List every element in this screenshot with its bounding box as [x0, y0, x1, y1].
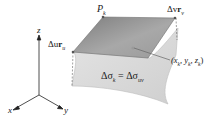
point-pk-marker [102, 16, 105, 19]
label-area-element: Δσk = Δσuv [101, 71, 144, 83]
label-delta-u-ru: Δuru [48, 40, 65, 51]
axis-label-x: x [8, 106, 12, 115]
axis-label-y: y [64, 106, 68, 115]
vector-v-tip-marker [174, 17, 177, 20]
axis-label-z: z [37, 26, 41, 35]
label-sample-point: (xk, yk, zk) [171, 56, 203, 67]
vector-u-tip-marker [72, 51, 75, 54]
label-delta-v-rv: Δvrv [167, 5, 184, 16]
label-pk: Pk [97, 4, 106, 16]
